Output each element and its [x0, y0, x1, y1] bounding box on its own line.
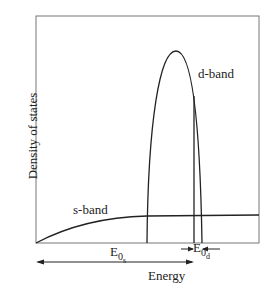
x-axis-label: Energy	[148, 268, 185, 284]
arrow-head-left-icon	[36, 260, 44, 265]
s-band-label: s-band	[73, 202, 108, 218]
e0d-label: E0d	[193, 240, 210, 256]
arrow-head-right-icon	[186, 260, 194, 265]
e0s-main: E	[110, 244, 118, 259]
y-axis-label: Density of states	[25, 81, 41, 191]
e0d-main: E	[193, 240, 201, 255]
e0s-label: E0s	[110, 244, 126, 260]
d-band-label: d-band	[198, 66, 234, 82]
e0d-subsub: d	[206, 252, 210, 261]
e0s-subsub: s	[123, 256, 126, 265]
